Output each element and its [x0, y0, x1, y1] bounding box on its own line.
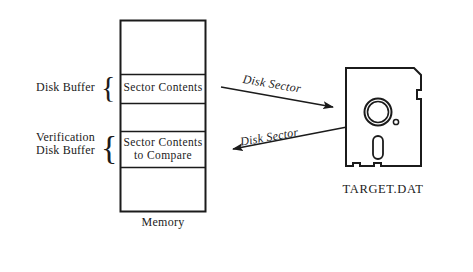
memory-cell-label-3: Sector Contents to Compare — [122, 136, 204, 162]
memory-outline — [121, 21, 206, 212]
memory-cell-label-1: Sector Contents — [122, 81, 204, 94]
index-hole — [393, 119, 398, 124]
disk-caption: TARGET.DAT — [333, 182, 433, 196]
brace-verification-disk-buffer: { — [101, 131, 117, 165]
brace-disk-buffer: { — [101, 72, 115, 102]
group-label-disk-buffer: Disk Buffer — [10, 81, 95, 94]
figure-canvas: Sector Contents Sector Contents to Compa… — [0, 0, 473, 272]
group-label-verification-disk-buffer: Verification Disk Buffer — [10, 131, 95, 158]
hub-ring-inner — [368, 102, 389, 123]
memory-caption: Memory — [118, 216, 208, 229]
head-slot — [373, 136, 383, 159]
floppy-disk — [346, 68, 421, 166]
memory-block — [121, 21, 206, 212]
